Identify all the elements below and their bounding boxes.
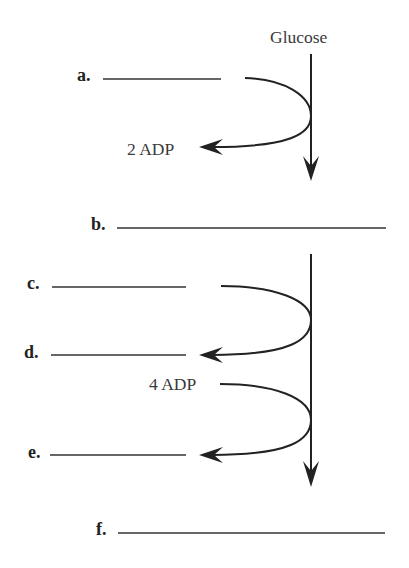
stage2-arc-2-path xyxy=(212,384,311,455)
stage1-side-arc xyxy=(199,78,311,155)
glycolysis-diagram: Glucose a. 2 ADP b. c. d. 4 ADP e. f. xyxy=(0,0,409,568)
blank-label-b: b. xyxy=(91,214,106,234)
blank-label-a: a. xyxy=(77,65,91,85)
blank-label-c: c. xyxy=(27,273,40,293)
adp-2-label: 2 ADP xyxy=(127,139,174,159)
blank-label-d: d. xyxy=(24,342,39,362)
stage2-arc-1-path xyxy=(212,286,311,355)
stage2-main-arrow xyxy=(303,254,319,487)
stage2-arc-2 xyxy=(199,384,311,463)
blank-label-f: f. xyxy=(96,519,107,539)
glucose-label: Glucose xyxy=(270,27,328,47)
stage2-arc-1 xyxy=(199,286,311,363)
stage1-arc-path xyxy=(212,78,311,147)
blank-label-e: e. xyxy=(28,442,41,462)
adp-4-label: 4 ADP xyxy=(149,374,196,394)
